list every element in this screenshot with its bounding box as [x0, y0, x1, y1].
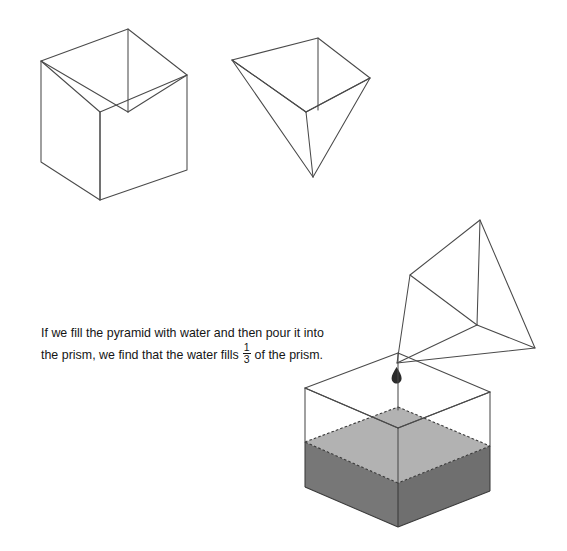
prism-top-rim — [41, 29, 187, 112]
prism-interior-back-right-edge — [128, 75, 187, 112]
filled-prism-bottom-right — [305, 353, 490, 527]
inverted-pyramid-top-right — [232, 38, 370, 177]
tilted-pyramid-pouring — [397, 220, 535, 363]
water-droplet-icon — [392, 367, 402, 384]
fraction-numerator: 1 — [243, 342, 251, 353]
fraction-one-third: 13 — [243, 342, 251, 365]
inverted-pyramid-apex-edge-center — [306, 112, 313, 177]
tilted-pyramid-edge-to-interior-apex — [477, 220, 480, 325]
fraction-denominator: 3 — [243, 353, 251, 365]
prism-front-left-face — [41, 61, 100, 200]
open-prism-top-left — [41, 29, 187, 200]
caption-line-3: of the prism. — [255, 347, 323, 361]
inverted-pyramid-interior-left-edge — [232, 60, 306, 112]
caption-text-block: If we fill the pyramid with water and th… — [41, 325, 333, 365]
caption-line-1: If we fill the pyramid with water and th… — [41, 326, 291, 340]
figure-canvas — [0, 0, 567, 551]
tilted-pyramid-outline — [397, 220, 535, 363]
inverted-pyramid-apex-edge-left — [232, 60, 313, 177]
filled-prism-interior-back-left — [305, 388, 398, 428]
tilted-pyramid-edge-to-interior-left — [410, 275, 477, 325]
prism-interior-back-left-edge — [41, 61, 128, 112]
filled-prism-interior-back-right — [398, 392, 490, 428]
